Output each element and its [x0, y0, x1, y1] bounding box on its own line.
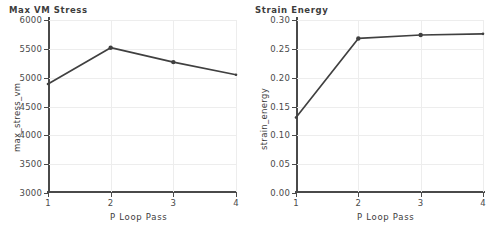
x-axis-tick-label: 2 [356, 198, 362, 208]
data-point [482, 33, 485, 36]
data-point [47, 83, 50, 86]
y-axis-tick-label: 4500 [20, 102, 42, 112]
y-axis-tick-label: 0.00 [270, 188, 290, 198]
series-line [296, 34, 483, 118]
figure-canvas: Max VM Stress max_stress_vm P Loop Pass … [0, 0, 495, 229]
x-axis-tick-label: 4 [480, 198, 486, 208]
data-point [108, 45, 112, 49]
x-axis-tick-label: 2 [108, 198, 114, 208]
y-axis-tick-label: 0.20 [270, 73, 290, 83]
y-axis-tick-label: 0.15 [270, 102, 290, 112]
data-point [171, 60, 175, 64]
y-axis-tick-label: 0.30 [270, 15, 290, 25]
chart-panel-strain-energy: Strain Energy strain_energy P Loop Pass … [247, 0, 495, 229]
plot-area: 0.000.050.100.150.200.250.301234 [296, 20, 483, 193]
y-axis-tick-label: 6000 [20, 15, 42, 25]
x-axis-tick-label: 3 [171, 198, 177, 208]
chart-title: Max VM Stress [9, 5, 88, 15]
x-axis-tick-label: 1 [45, 198, 51, 208]
x-axis-tick-label: 1 [293, 198, 299, 208]
y-axis-title: max_stress_vm [12, 83, 22, 152]
plot-area: 30003500400045005000550060001234 [48, 20, 236, 193]
y-axis-title: strain_energy [259, 88, 269, 150]
x-axis-tick [236, 192, 237, 197]
y-axis-tick-label: 5500 [20, 44, 42, 54]
x-axis-tick [483, 192, 484, 197]
y-axis-tick-label: 4000 [20, 130, 42, 140]
y-axis-tick-label: 5000 [20, 73, 42, 83]
data-point [295, 116, 298, 119]
data-series [296, 20, 483, 193]
x-axis-tick-label: 3 [418, 198, 424, 208]
y-axis-tick-label: 3000 [20, 188, 42, 198]
y-axis-tick-label: 0.05 [270, 159, 290, 169]
gridline-vertical [236, 20, 237, 193]
data-point [356, 36, 360, 40]
y-axis-tick-label: 3500 [20, 159, 42, 169]
chart-title: Strain Energy [255, 5, 328, 15]
data-point [235, 73, 238, 76]
chart-panel-max-vm-stress: Max VM Stress max_stress_vm P Loop Pass … [0, 0, 248, 229]
data-series [48, 20, 236, 193]
x-axis-title: P Loop Pass [357, 212, 414, 222]
series-line [48, 48, 236, 84]
y-axis-tick-label: 0.25 [270, 44, 290, 54]
x-axis-title: P Loop Pass [110, 212, 167, 222]
x-axis-tick-label: 4 [233, 198, 239, 208]
data-point [418, 33, 422, 37]
gridline-vertical [483, 20, 484, 193]
y-axis-tick-label: 0.10 [270, 130, 290, 140]
